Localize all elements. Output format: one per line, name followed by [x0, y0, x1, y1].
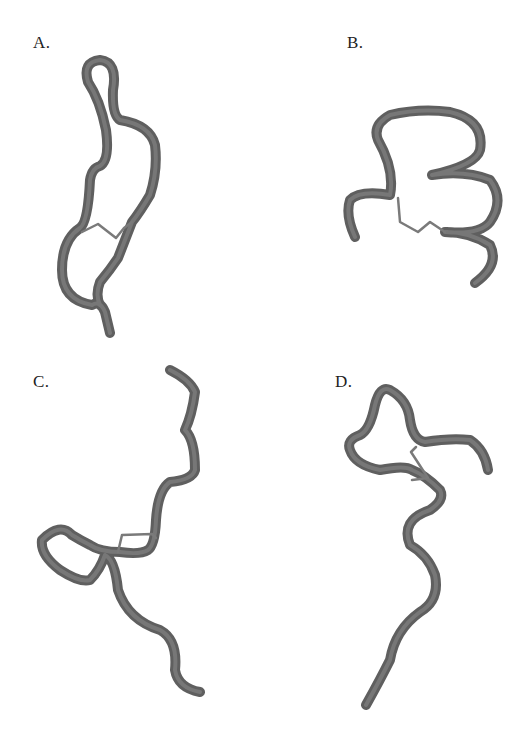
backbone-tube-a [62, 60, 156, 333]
panel-a-structure [62, 60, 156, 333]
disulfide-bond-b [398, 198, 445, 232]
panel-c-structure [42, 370, 200, 692]
panel-d-structure [349, 389, 488, 705]
panel-b-structure [348, 111, 497, 283]
backbone-tube-d [349, 389, 488, 705]
backbone-tube-b [348, 111, 497, 283]
peptide-structures-figure [0, 0, 524, 741]
